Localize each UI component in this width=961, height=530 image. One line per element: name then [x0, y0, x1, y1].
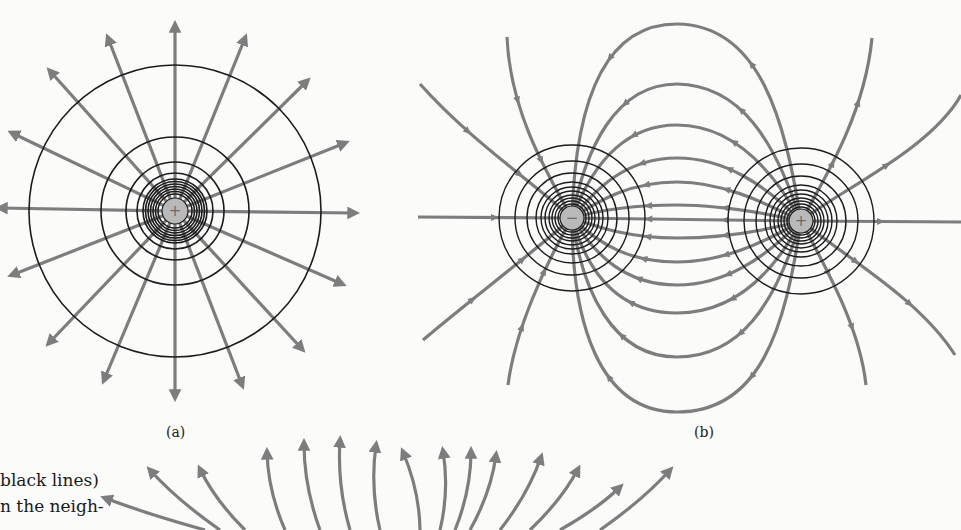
field-arrow-icon — [644, 202, 652, 209]
field-arrow-icon — [720, 232, 729, 240]
field-line — [50, 71, 166, 201]
field-line — [180, 223, 242, 385]
body-text-line-2: n the neigh- — [0, 496, 104, 516]
positive-charge: + — [789, 209, 813, 233]
field-arrow-icon — [643, 233, 652, 241]
figure-canvas: + −+ — [0, 0, 961, 530]
minus-sign-icon: − — [566, 209, 579, 227]
field-line — [530, 469, 578, 530]
field-line — [374, 445, 380, 530]
field-arrow-icon — [491, 214, 499, 221]
field-line — [304, 443, 320, 530]
field-line — [440, 451, 446, 530]
field-line — [403, 452, 420, 530]
caption-b: (b) — [694, 424, 714, 440]
field-line — [423, 218, 572, 340]
panel-b-dipole: −+ — [418, 24, 961, 412]
field-line — [267, 452, 285, 530]
field-line — [572, 218, 801, 262]
body-text-line-1: black lines) — [0, 470, 99, 490]
field-line — [500, 457, 541, 530]
field-arrow-icon — [877, 218, 885, 225]
field-line — [150, 470, 220, 530]
field-line — [108, 38, 170, 199]
field-line — [572, 84, 801, 221]
panel-c-partial-fan — [105, 440, 670, 530]
plus-sign-icon: + — [795, 212, 808, 230]
panel-a-single-charge: + — [0, 25, 355, 397]
field-line — [339, 440, 350, 530]
positive-charge: + — [162, 198, 188, 224]
field-line — [572, 218, 801, 221]
caption-a: (a) — [166, 424, 185, 440]
field-line — [455, 451, 471, 530]
field-line — [600, 470, 670, 530]
negative-charge: − — [560, 206, 584, 230]
field-line — [105, 498, 205, 530]
field-line — [470, 455, 496, 530]
plus-sign-icon: + — [169, 202, 182, 220]
